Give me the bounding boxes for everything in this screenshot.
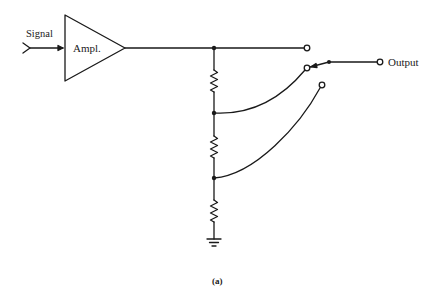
signal-label: Signal [26,28,53,39]
signal-input-connector-icon [23,43,30,53]
tap-wire-1 [214,70,305,113]
switch-terminal-1 [304,45,310,51]
junction-dot [212,46,216,50]
switch-terminal-2 [304,65,310,71]
switch-arrow-icon [311,64,317,68]
output-label: Output [388,56,419,68]
circuit-diagram: Signal Ampl. Output (a) [0,0,442,300]
switch-pivot-dot [327,60,331,64]
input-arrow-icon [58,46,63,51]
output-terminal [377,59,383,65]
figure-caption: (a) [212,276,223,286]
amplifier-label: Ampl. [73,42,101,54]
resistor-r3-icon [211,200,218,222]
resistor-r2-icon [211,136,218,158]
junction-dot [212,176,216,180]
junction-dot [212,111,216,115]
switch-terminal-3 [319,82,325,88]
resistor-r1-icon [211,70,218,92]
ground-icon [207,239,221,246]
